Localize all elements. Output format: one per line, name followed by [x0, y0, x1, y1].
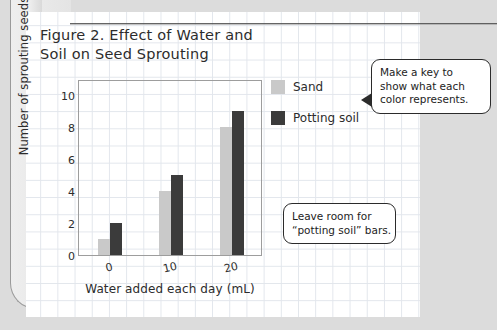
y-tick-label: 2	[68, 218, 75, 231]
bar-potting-soil-0	[110, 223, 122, 255]
x-axis-ticks: 01020	[78, 261, 262, 279]
callout-key-line-1: Make a key to	[380, 66, 482, 80]
bar-sand-0	[98, 239, 110, 255]
x-axis-title: Water added each day (mL)	[60, 282, 280, 296]
callout-room-line-1: Leave room for	[292, 210, 387, 224]
legend-label: Sand	[293, 80, 323, 94]
worksheet-page: Figure 2. Effect of Water and Soil on Se…	[0, 0, 497, 330]
bar-chart: Number of sprouting seeds 0246810 01020 …	[0, 0, 497, 330]
x-tick-label: 10	[162, 260, 179, 276]
bar-sand-10	[159, 191, 171, 255]
legend-item: Sand	[271, 80, 359, 94]
y-axis-title-holder: Number of sprouting seeds	[44, 80, 45, 256]
callout-room-line-2: “potting soil” bars.	[292, 224, 387, 238]
y-tick-label: 6	[68, 154, 75, 167]
legend-swatch-icon	[271, 80, 285, 94]
x-tick-label: 20	[223, 260, 240, 276]
y-tick-label: 0	[68, 250, 75, 263]
bar-potting-soil-10	[171, 175, 183, 255]
bars-layer	[79, 81, 261, 255]
legend-label: Potting soil	[293, 111, 359, 125]
callout-key-line-3: color represents.	[380, 93, 482, 107]
y-axis-ticks: 0246810	[56, 80, 75, 256]
bar-sand-20	[220, 127, 232, 255]
legend-swatch-icon	[271, 111, 285, 125]
y-tick-label: 8	[68, 122, 75, 135]
plot-area	[78, 80, 262, 256]
bar-potting-soil-20	[232, 111, 244, 255]
legend-item: Potting soil	[271, 111, 359, 125]
y-tick-label: 10	[61, 90, 75, 103]
callout-leave-room: Leave room for “potting soil” bars.	[283, 203, 396, 244]
callout-pointer-icon	[361, 93, 372, 107]
callout-make-a-key: Make a key to show what each color repre…	[371, 59, 491, 114]
y-tick-label: 4	[68, 186, 75, 199]
chart-legend: SandPotting soil	[271, 80, 359, 142]
y-axis-title: Number of sprouting seeds	[17, 0, 31, 164]
callout-key-line-2: show what each	[380, 80, 482, 94]
x-tick-label: 0	[104, 260, 114, 274]
